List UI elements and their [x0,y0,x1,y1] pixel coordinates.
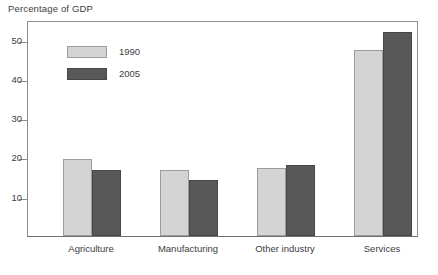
chart-title: Percentage of GDP [8,3,93,14]
bar-services-2005 [383,32,412,236]
legend-item-2005: 2005 [67,65,140,82]
y-axis-tick-label: 10 [11,192,22,203]
bar-agriculture-2005 [92,170,121,236]
y-axis-tick-label: 50 [11,35,22,46]
y-axis-tick-label: 30 [11,113,22,124]
x-axis-label-other-industry: Other industry [255,243,315,254]
legend-swatch-2005 [67,68,107,80]
legend-item-1990: 1990 [67,43,140,60]
y-axis-tick-label: 40 [11,74,22,85]
bar-other-industry-1990 [257,168,286,236]
x-axis-label-manufacturing: Manufacturing [158,243,218,254]
legend-label-1990: 1990 [119,46,140,57]
chart-legend: 1990 2005 [67,43,140,87]
bar-services-1990 [354,50,383,236]
bar-agriculture-1990 [63,159,92,236]
x-axis-label-services: Services [364,243,400,254]
bar-other-industry-2005 [286,165,315,236]
bar-manufacturing-1990 [160,170,189,236]
y-axis-tick-label: 20 [11,152,22,163]
legend-label-2005: 2005 [119,68,140,79]
x-axis-label-agriculture: Agriculture [68,243,113,254]
legend-swatch-1990 [67,46,107,58]
bar-manufacturing-2005 [189,180,218,236]
